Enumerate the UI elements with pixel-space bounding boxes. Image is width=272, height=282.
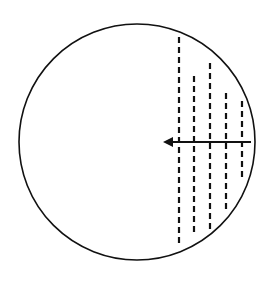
diagram-svg xyxy=(0,0,272,282)
diagram-canvas xyxy=(0,0,272,282)
arrow xyxy=(163,137,251,147)
arrow-left-icon xyxy=(163,137,173,147)
